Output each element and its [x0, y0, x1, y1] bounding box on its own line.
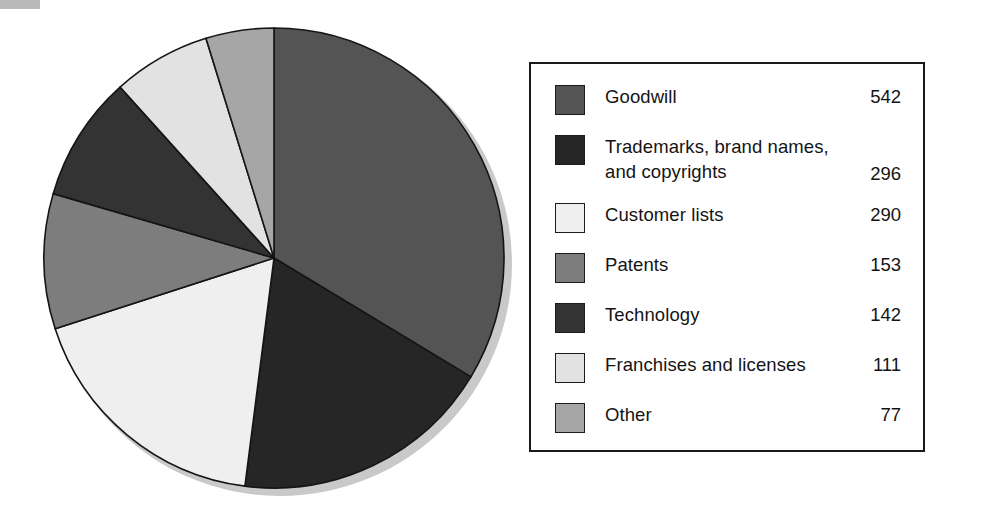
- legend-swatch-technology: [555, 303, 585, 333]
- legend-swatch-franchises: [555, 353, 585, 383]
- legend-label-other: Other: [585, 402, 847, 427]
- scan-artifact-strip: [0, 0, 40, 9]
- pie-chart-figure: Goodwill 542 Trademarks, brand names, an…: [0, 0, 985, 511]
- legend-label-technology: Technology: [585, 302, 847, 327]
- legend-label-patents: Patents: [585, 252, 847, 277]
- legend-item-other: Other 77: [555, 402, 901, 436]
- legend-item-trademarks: Trademarks, brand names, and copyrights …: [555, 134, 901, 186]
- legend-swatch-trademarks: [555, 135, 585, 165]
- legend-item-customer-lists: Customer lists 290: [555, 202, 901, 236]
- scan-artifact-strip-2: [40, 0, 985, 5]
- legend-swatch-goodwill: [555, 85, 585, 115]
- legend-item-technology: Technology 142: [555, 302, 901, 336]
- legend-value-trademarks: 296: [847, 161, 901, 186]
- pie-chart-svg: [36, 18, 526, 508]
- legend-swatch-patents: [555, 253, 585, 283]
- chart-legend: Goodwill 542 Trademarks, brand names, an…: [529, 62, 925, 452]
- legend-swatch-customer-lists: [555, 203, 585, 233]
- legend-item-franchises: Franchises and licenses 111: [555, 352, 901, 386]
- legend-label-customer-lists: Customer lists: [585, 202, 847, 227]
- legend-value-goodwill: 542: [847, 84, 901, 109]
- legend-value-other: 77: [847, 402, 901, 427]
- legend-swatch-other: [555, 403, 585, 433]
- legend-label-goodwill: Goodwill: [585, 84, 847, 109]
- legend-item-goodwill: Goodwill 542: [555, 84, 901, 118]
- legend-label-trademarks: Trademarks, brand names, and copyrights: [585, 134, 847, 184]
- legend-item-patents: Patents 153: [555, 252, 901, 286]
- legend-value-franchises: 111: [847, 352, 901, 377]
- legend-label-franchises: Franchises and licenses: [585, 352, 847, 377]
- pie-slice-group: [44, 28, 504, 488]
- pie-chart: [36, 18, 526, 508]
- chart-legend-list: Goodwill 542 Trademarks, brand names, an…: [531, 64, 923, 450]
- legend-value-customer-lists: 290: [847, 202, 901, 227]
- legend-value-technology: 142: [847, 302, 901, 327]
- legend-value-patents: 153: [847, 252, 901, 277]
